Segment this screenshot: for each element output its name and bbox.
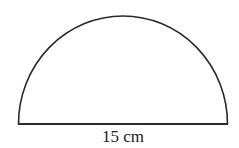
- diameter-label: 15 cm: [102, 127, 144, 146]
- semicircle-arc: [19, 16, 228, 124]
- semicircle-diagram: 15 cm: [0, 0, 239, 148]
